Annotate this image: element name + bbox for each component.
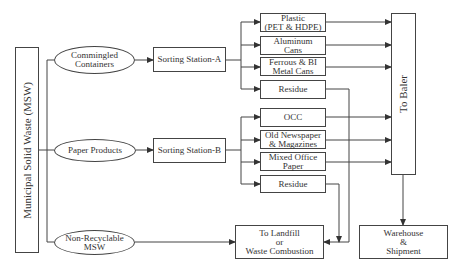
to-baler-box: To Baler: [391, 13, 416, 175]
output-aluminum-box: Aluminum Cans: [260, 36, 326, 55]
sorting-station-a-box: Sorting Station-A: [153, 47, 226, 72]
sorting-station-b-label: Sorting Station-B: [158, 146, 221, 155]
output-label: OCC: [284, 113, 303, 122]
to-baler-label: To Baler: [399, 75, 408, 113]
commingled-containers-node: Commingled Containers: [54, 46, 135, 74]
msw-source-label: Municipal Solid Waste (MSW): [23, 82, 32, 219]
output-residue-b-box: Residue: [260, 175, 326, 193]
output-residue-a-box: Residue: [260, 80, 326, 99]
output-plastic-box: Plastic (PET & HDPE): [260, 13, 326, 32]
output-label: Cans: [284, 46, 302, 55]
output-old-newspaper-box: Old Newspaper & Magazines: [260, 130, 326, 149]
paper-products-node: Paper Products: [54, 139, 136, 162]
output-label: & Magazines: [269, 140, 317, 149]
non-recyclable-line2: MSW: [84, 243, 106, 252]
landfill-label: Waste Combustion: [245, 247, 313, 256]
output-label: Residue: [279, 85, 308, 94]
output-label: Residue: [279, 180, 308, 189]
output-ferrous-box: Ferrous & BI Metal Cans: [260, 57, 326, 76]
commingled-line2: Containers: [75, 60, 114, 69]
output-label: Metal Cans: [272, 67, 313, 76]
warehouse-label: Shipment: [386, 247, 421, 256]
output-mixed-office-box: Mixed Office Paper: [260, 152, 326, 171]
output-occ-box: OCC: [260, 108, 326, 127]
output-label: Paper: [283, 162, 304, 171]
msw-source-box: Municipal Solid Waste (MSW): [15, 47, 39, 253]
paper-products-label: Paper Products: [68, 146, 122, 155]
output-label: (PET & HDPE): [265, 23, 322, 32]
warehouse-box: Warehouse & Shipment: [359, 225, 448, 259]
non-recyclable-msw-node: Non-Recyclable MSW: [54, 230, 135, 255]
sorting-station-b-box: Sorting Station-B: [153, 138, 226, 163]
sorting-station-a-label: Sorting Station-A: [158, 55, 222, 64]
landfill-box: To Landfill or Waste Combustion: [235, 225, 324, 259]
